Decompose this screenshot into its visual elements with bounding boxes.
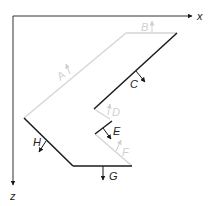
- edge-C: [94, 33, 177, 109]
- label-H: H: [33, 136, 41, 148]
- edge-D: [94, 109, 110, 119]
- edge-E: [95, 121, 112, 134]
- x-axis-label: x: [196, 10, 203, 22]
- label-G: G: [109, 170, 118, 182]
- label-D: D: [112, 106, 120, 118]
- plate-diagram: x z A B C D E F G H: [0, 0, 215, 206]
- normal-arrow-F-icon: [116, 140, 121, 151]
- label-B: B: [141, 21, 148, 33]
- normal-arrow-D-icon: [108, 104, 110, 115]
- edge-H: [24, 118, 73, 166]
- normal-arrow-A-icon: [66, 64, 70, 74]
- edge-labels: A B C D E F G H: [33, 21, 148, 182]
- edge-A: [24, 33, 126, 118]
- label-C: C: [130, 78, 138, 90]
- label-A: A: [53, 68, 67, 83]
- label-E: E: [113, 125, 121, 137]
- normal-arrows: [39, 21, 152, 180]
- light-edges: [24, 33, 177, 166]
- label-F: F: [122, 146, 130, 158]
- z-axis-label: z: [9, 190, 16, 202]
- normal-arrow-E-icon: [103, 128, 111, 139]
